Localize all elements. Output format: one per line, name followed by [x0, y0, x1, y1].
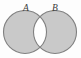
- venn-diagram-figure: A B: [0, 0, 81, 58]
- venn-diagram-canvas: A B: [0, 0, 81, 58]
- set-a-label: A: [22, 3, 29, 13]
- set-b-label: B: [52, 3, 58, 13]
